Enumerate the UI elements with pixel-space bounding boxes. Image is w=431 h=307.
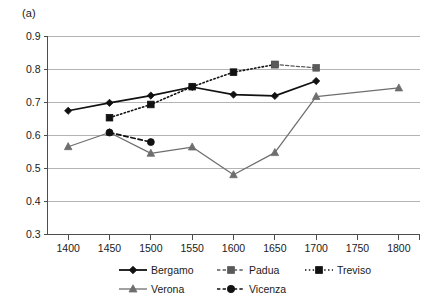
- x-axis-tick-label: 1600: [222, 242, 246, 254]
- y-axis-tick-label: 0.3: [26, 228, 41, 240]
- series-line-vicenza: [110, 133, 151, 143]
- y-axis-tick-label: 0.9: [26, 30, 41, 42]
- x-axis-tick-label: 1550: [180, 242, 204, 254]
- chart-legend: BergamoPaduaTrevisoVeronaVicenza: [118, 260, 418, 298]
- data-point-treviso: [148, 101, 155, 108]
- x-axis-tick-label: 1800: [387, 242, 411, 254]
- legend-item-padua[interactable]: Padua: [216, 260, 294, 279]
- legend-marker-bergamo: [118, 263, 148, 277]
- y-axis-tick-label: 0.7: [26, 96, 41, 108]
- legend-label: Padua: [246, 263, 279, 277]
- legend-label: Bergamo: [148, 263, 194, 277]
- y-axis-tick-label: 0.4: [26, 195, 41, 207]
- legend-marker-verona: [118, 282, 148, 296]
- x-axis-tick-label: 1750: [346, 242, 370, 254]
- x-axis-tick-label: 1400: [56, 242, 80, 254]
- data-point-padua: [272, 61, 279, 68]
- legend-marker-treviso: [304, 263, 334, 277]
- legend-item-bergamo[interactable]: Bergamo: [118, 260, 206, 279]
- legend-label: Vicenza: [246, 282, 286, 296]
- data-point-treviso: [230, 69, 237, 76]
- data-point-bergamo: [313, 77, 320, 84]
- data-point-padua: [313, 65, 320, 72]
- y-axis-tick-label: 0.6: [26, 129, 41, 141]
- data-point-bergamo: [106, 99, 113, 106]
- data-point-bergamo: [271, 92, 278, 99]
- legend-item-vicenza[interactable]: Vicenza: [216, 279, 296, 298]
- data-point-vicenza: [106, 129, 113, 136]
- data-point-verona: [395, 84, 403, 91]
- legend-item-verona[interactable]: Verona: [118, 279, 206, 298]
- data-point-bergamo: [230, 91, 237, 98]
- chart-figure: (a) 0.30.40.50.60.70.80.9140014501500155…: [0, 0, 431, 307]
- x-axis-tick-label: 1500: [139, 242, 163, 254]
- x-axis-tick-label: 1650: [263, 242, 287, 254]
- data-point-verona: [230, 171, 238, 178]
- x-axis-tick-label: 1700: [304, 242, 328, 254]
- legend-item-treviso[interactable]: Treviso: [304, 260, 384, 279]
- legend-marker-padua: [216, 263, 246, 277]
- y-axis-tick-label: 0.5: [26, 162, 41, 174]
- data-point-verona: [188, 143, 196, 150]
- data-point-treviso: [106, 114, 113, 121]
- legend-label: Verona: [148, 282, 184, 296]
- data-point-vicenza: [147, 139, 154, 146]
- legend-marker-vicenza: [216, 282, 246, 296]
- data-point-bergamo: [65, 107, 72, 114]
- series-line-padua: [275, 65, 316, 68]
- x-axis-tick-label: 1450: [98, 242, 122, 254]
- y-axis-tick-label: 0.8: [26, 63, 41, 75]
- data-point-bergamo: [147, 92, 154, 99]
- legend-label: Treviso: [334, 263, 371, 277]
